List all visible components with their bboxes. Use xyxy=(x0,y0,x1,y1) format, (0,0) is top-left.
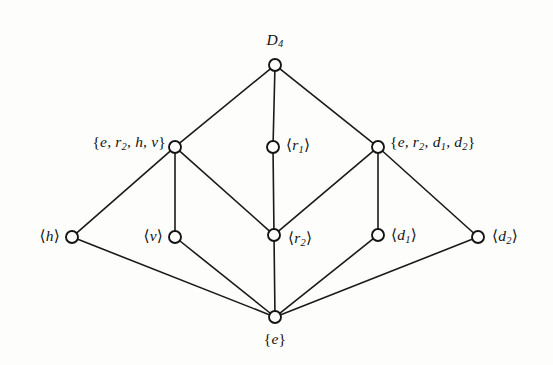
lattice-edge-r2-to-e xyxy=(274,241,275,312)
lattice-edge-edd-to-r2 xyxy=(278,151,373,232)
lattice-node-v xyxy=(169,231,181,243)
edges-group xyxy=(76,68,474,314)
lattice-node-r1 xyxy=(267,141,279,153)
lattice-node-d2 xyxy=(472,231,484,243)
lattice-edge-d1-to-e xyxy=(279,238,373,313)
node-label-e: {e} xyxy=(264,331,286,347)
node-label-ehv: {e, r2, h, v} xyxy=(92,134,166,152)
lattice-node-h xyxy=(66,231,78,243)
node-label-v: ⟨v⟩ xyxy=(143,228,163,244)
subgroup-lattice-diagram: D4{e, r2, h, v}⟨r1⟩{e, r2, d1, d2}⟨h⟩⟨v⟩… xyxy=(0,0,553,365)
lattice-node-top xyxy=(269,59,281,71)
lattice-edge-edd-to-d2 xyxy=(382,151,474,234)
lattice-edge-top-to-edd xyxy=(279,68,373,143)
lattice-edge-ehv-to-r2 xyxy=(179,151,270,232)
node-label-edd: {e, r2, d1, d2} xyxy=(390,134,475,152)
node-label-r2: ⟨r2⟩ xyxy=(288,230,312,248)
lattice-edge-top-to-r1 xyxy=(273,71,275,142)
lattice-node-e xyxy=(269,311,281,323)
lattice-edge-v-to-e xyxy=(179,241,270,314)
lattice-edge-ehv-to-h xyxy=(76,151,171,234)
lattice-node-r2 xyxy=(268,229,280,241)
lattice-node-ehv xyxy=(169,141,181,153)
node-label-top: D4 xyxy=(267,32,284,50)
node-label-d2: ⟨d2⟩ xyxy=(492,228,518,246)
node-label-d1: ⟨d1⟩ xyxy=(391,227,417,245)
lattice-graph-canvas xyxy=(0,0,553,365)
node-label-r1: ⟨r1⟩ xyxy=(286,137,310,155)
lattice-node-d1 xyxy=(372,229,384,241)
lattice-edge-h-to-e xyxy=(77,239,270,315)
lattice-edge-r1-to-r2 xyxy=(273,153,274,230)
lattice-edge-d2-to-e xyxy=(280,239,473,315)
lattice-node-edd xyxy=(372,141,384,153)
node-label-h: ⟨h⟩ xyxy=(40,228,60,244)
lattice-edge-top-to-ehv xyxy=(179,69,270,144)
